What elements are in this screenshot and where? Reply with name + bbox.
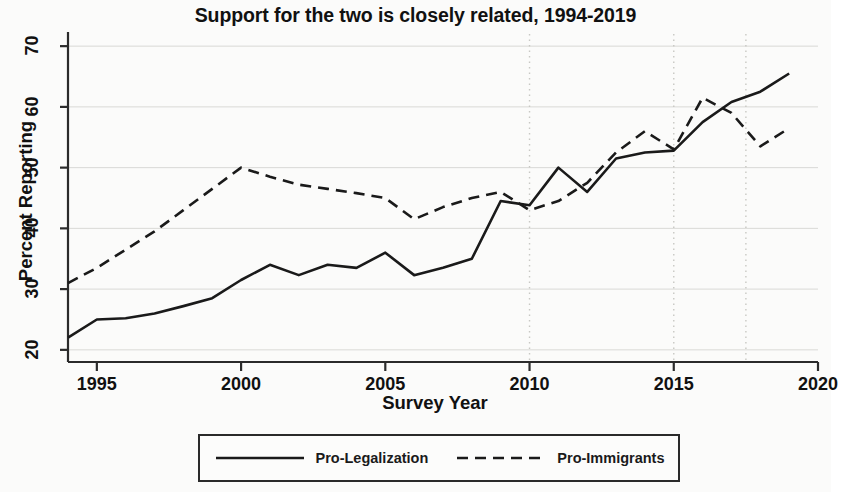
legend-entry: Pro-Immigrants <box>455 450 664 466</box>
legend-entry: Pro-Legalization <box>214 450 429 466</box>
axis-spines <box>68 32 818 362</box>
series-line-1 <box>68 98 789 283</box>
legend-label: Pro-Immigrants <box>557 450 664 466</box>
legend-entries: Pro-LegalizationPro-Immigrants <box>200 436 678 480</box>
legend: Pro-LegalizationPro-Immigrants <box>198 434 680 482</box>
vertical-gridlines <box>530 34 746 362</box>
legend-label: Pro-Legalization <box>316 450 429 466</box>
legend-dashed-line-icon <box>455 452 547 464</box>
data-series <box>68 73 789 337</box>
horizontal-gridlines <box>68 46 818 350</box>
series-line-0 <box>68 73 789 337</box>
legend-solid-line-icon <box>214 452 306 464</box>
